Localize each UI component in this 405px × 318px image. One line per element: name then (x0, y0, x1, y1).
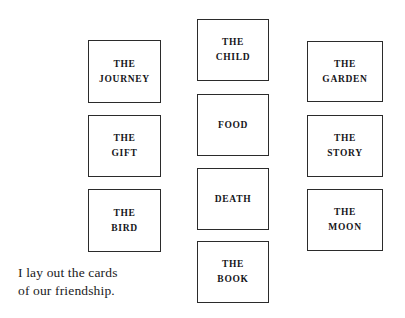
card-label: THE BOOK (217, 257, 248, 286)
card-label: THE GIFT (111, 131, 137, 160)
card-the-journey[interactable]: THE JOURNEY (88, 40, 161, 103)
card-the-book[interactable]: THE BOOK (197, 241, 269, 303)
card-label: THE JOURNEY (99, 57, 150, 86)
card-spread-illustration: THE JOURNEY THE GIFT THE BIRD THE CHILD … (0, 0, 405, 318)
card-the-gift[interactable]: THE GIFT (88, 115, 161, 177)
card-label: THE BIRD (111, 206, 138, 235)
card-the-garden[interactable]: THE GARDEN (307, 41, 383, 102)
card-the-story[interactable]: THE STORY (307, 115, 383, 177)
card-food[interactable]: FOOD (197, 94, 269, 156)
card-death[interactable]: DEATH (197, 168, 269, 230)
card-label: THE CHILD (216, 35, 251, 64)
card-label: THE GARDEN (322, 57, 367, 86)
caption-text: I lay out the cards of our friendship. (18, 264, 118, 301)
card-label: THE MOON (328, 205, 361, 234)
card-label: THE STORY (327, 131, 363, 160)
card-the-child[interactable]: THE CHILD (197, 19, 269, 81)
card-label: DEATH (215, 192, 252, 207)
card-the-bird[interactable]: THE BIRD (88, 189, 161, 252)
card-label: FOOD (218, 118, 248, 133)
card-the-moon[interactable]: THE MOON (307, 189, 383, 251)
